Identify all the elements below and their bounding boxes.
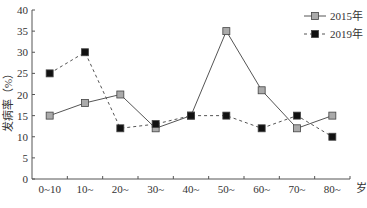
y-tick-label: 35 (17, 25, 29, 37)
x-tick-label: 0~10 (38, 183, 61, 195)
legend: 2015年2019年 (304, 9, 363, 40)
y-tick-label: 40 (17, 4, 29, 16)
y-tick-label: 20 (17, 89, 29, 101)
y-tick-label: 15 (17, 110, 29, 122)
series-1 (46, 49, 336, 141)
data-point-marker (223, 112, 230, 119)
y-axis-label: 发病率（%） (1, 68, 14, 132)
data-point-marker (188, 112, 195, 119)
y-tick-label: 10 (17, 131, 29, 143)
data-point-marker (329, 112, 336, 119)
y-axis-ticks: 0510152025303540 (17, 4, 35, 185)
data-point-marker (82, 99, 89, 106)
data-point-marker (117, 91, 124, 98)
data-point-marker (258, 125, 265, 132)
data-point-marker (294, 112, 301, 119)
legend-marker-icon (312, 13, 319, 20)
data-point-marker (223, 28, 230, 35)
y-tick-label: 25 (17, 67, 29, 79)
legend-label: 2019年 (330, 27, 363, 40)
x-tick-label: 80~ (324, 183, 341, 195)
x-tick-label: 30~ (147, 183, 164, 195)
legend-label: 2015年 (330, 9, 363, 22)
data-point-marker (258, 87, 265, 94)
x-tick-label: 60~ (253, 183, 270, 195)
x-axis-unit-label: 岁 (356, 181, 367, 194)
line-chart: 0510152025303540 0~1010~20~30~40~50~60~7… (0, 0, 367, 208)
x-tick-label: 50~ (218, 183, 235, 195)
x-tick-label: 40~ (183, 183, 200, 195)
data-point-marker (152, 121, 159, 128)
x-tick-label: 20~ (112, 183, 129, 195)
x-tick-label: 10~ (77, 183, 94, 195)
x-tick-label: 70~ (289, 183, 306, 195)
y-tick-label: 30 (17, 46, 29, 58)
series-lines (46, 28, 336, 141)
data-point-marker (46, 112, 53, 119)
legend-marker-icon (312, 31, 319, 38)
y-tick-label: 5 (23, 152, 29, 164)
data-point-marker (294, 125, 301, 132)
axes (32, 10, 350, 179)
data-point-marker (82, 49, 89, 56)
data-point-marker (329, 133, 336, 140)
data-point-marker (117, 125, 124, 132)
y-tick-label: 0 (23, 173, 29, 185)
data-point-marker (46, 70, 53, 77)
